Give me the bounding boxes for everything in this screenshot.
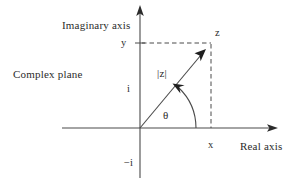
diagram-vector-graphics [0,0,304,187]
negative-unit-imaginary-label: −i [124,158,133,169]
complex-plane-label: Complex plane [13,69,83,80]
point-z-label: z [215,28,220,39]
angle-arc-path [179,88,197,129]
modulus-vector-arrowhead [195,49,207,61]
imaginary-axis [136,5,144,178]
modulus-vector-line [140,55,201,128]
x-coordinate-label: x [208,140,213,151]
y-coordinate-label: y [121,38,126,49]
real-axis-label: Real axis [240,141,282,152]
angle-arc [173,84,197,129]
modulus-vector [140,49,206,128]
imaginary-axis-label: Imaginary axis [62,20,130,31]
real-axis [62,124,278,132]
angle-theta-label: θ [163,110,168,121]
unit-imaginary-label: i [127,84,130,95]
magnitude-label: |z| [157,68,167,79]
complex-plane-diagram: Imaginary axis Real axis Complex plane z… [0,0,304,187]
